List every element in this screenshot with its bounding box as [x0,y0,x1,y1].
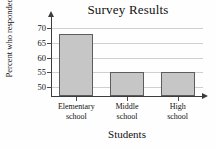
chart-title: Survey Results [48,2,208,18]
x-axis-tick-label-line-2: school [51,112,102,122]
x-axis-tick-label: Highschool [152,102,203,121]
x-axis-tick-label-line-1: High [170,102,186,111]
x-axis-tick-mark [178,97,179,101]
y-axis-tick-mark [47,72,52,73]
y-axis-tick-mark [47,58,52,59]
survey-results-bar-chart: Survey Results Percent who responded "no… [0,0,216,149]
y-axis-tick-mark [47,28,52,29]
gridline [51,28,203,29]
bar [59,34,93,96]
x-axis-tick-label: Elementaryschool [51,102,102,121]
y-axis-tick-mark [47,43,52,44]
x-axis-tick-label: Middleschool [102,102,153,121]
y-axis-tick-label: 70 [38,24,47,33]
bar [110,72,144,96]
x-axis-tick-label-line-1: Elementary [58,102,95,111]
y-axis-tick-mark [47,87,52,88]
x-axis-title: Students [51,128,203,140]
y-axis-title-line-2: responded "no" [5,0,15,33]
y-axis-tick-label: 60 [38,53,47,62]
x-axis-tick-mark [127,97,128,101]
y-axis-title-line-1: Percent who [5,35,15,77]
y-axis-tick-label: 55 [38,68,47,77]
x-axis-tick-label-line-1: Middle [115,102,138,111]
x-axis-tick-mark [76,97,77,101]
y-axis-tick-label: 65 [38,38,47,47]
y-axis-tick-label: 50 [38,83,47,92]
y-axis-title: Percent who responded "no" [0,0,21,75]
bar [161,72,195,96]
x-axis-tick-label-line-2: school [102,112,153,122]
x-axis-tick-label-line-2: school [152,112,203,122]
plot-area: 5055606570 [51,22,203,96]
